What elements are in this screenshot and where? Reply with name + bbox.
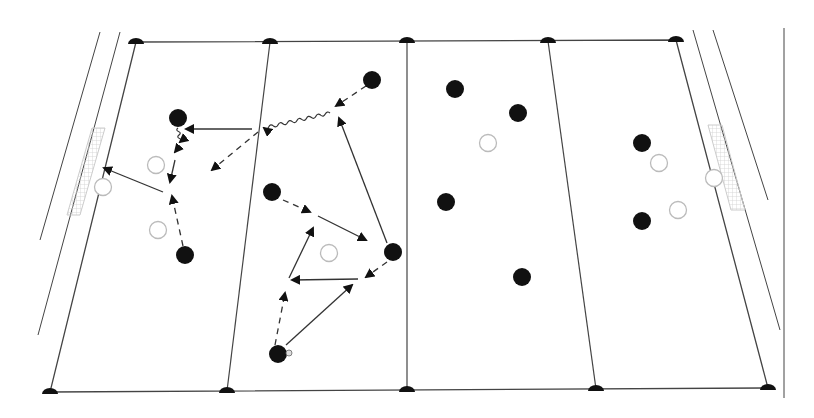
- defending-players: [95, 135, 723, 262]
- attacker-p6: [269, 345, 287, 363]
- soccer-field-canvas: [0, 0, 814, 418]
- pass-arrow: [318, 216, 366, 240]
- attacking-players: [169, 71, 651, 363]
- cone-marker: [399, 37, 415, 43]
- cone-marker: [262, 38, 278, 44]
- zone-line: [227, 42, 270, 391]
- run-arrow: [336, 86, 366, 106]
- pass-arrow: [339, 118, 387, 243]
- pass-arrow: [170, 160, 175, 182]
- cone-marker: [42, 388, 58, 394]
- defender-o6: [651, 155, 668, 172]
- movement-arrows: [104, 86, 387, 345]
- cone-marker: [588, 385, 604, 391]
- zone-line: [548, 41, 596, 389]
- run-arrow: [275, 293, 285, 345]
- run-arrow: [172, 196, 183, 246]
- attacker-p5: [384, 243, 402, 261]
- attacker-p4: [176, 246, 194, 264]
- ball-icon: [286, 350, 292, 356]
- defender-o2: [95, 179, 112, 196]
- cone-marker: [128, 38, 144, 44]
- pass-arrow: [175, 146, 180, 152]
- cone-markers: [42, 36, 776, 394]
- defender-o1: [148, 157, 165, 174]
- goal-right: [708, 125, 745, 210]
- attacker-p7: [446, 80, 464, 98]
- attacker-p9: [437, 193, 455, 211]
- defender-o5: [480, 135, 497, 152]
- cone-marker: [668, 36, 684, 42]
- cone-marker: [540, 37, 556, 43]
- cone-marker: [399, 386, 415, 392]
- run-arrow: [366, 262, 387, 277]
- dribble-arrow: [177, 128, 181, 142]
- pass-arrow: [289, 228, 313, 278]
- attacker-p3: [263, 183, 281, 201]
- attacker-p2: [363, 71, 381, 89]
- dribble-arrow: [264, 112, 330, 129]
- run-arrow: [283, 200, 310, 212]
- pass-arrow: [286, 285, 352, 345]
- run-arrow: [212, 132, 258, 170]
- defender-o3: [150, 222, 167, 239]
- attacker-p10: [513, 268, 531, 286]
- attacker-p8: [509, 104, 527, 122]
- field-lines: [50, 40, 768, 392]
- tactics-diagram: Soccer tactical drill diagram: [0, 0, 814, 418]
- field-boundary: [50, 40, 768, 392]
- defender-o4: [321, 245, 338, 262]
- attacker-p12: [633, 212, 651, 230]
- ball: [286, 350, 292, 356]
- defender-o8: [670, 202, 687, 219]
- attacker-p11: [633, 134, 651, 152]
- cone-marker: [760, 384, 776, 390]
- cone-marker: [219, 387, 235, 393]
- goal-left: [67, 128, 105, 215]
- attacker-p1: [169, 109, 187, 127]
- pass-arrow: [292, 279, 358, 280]
- defender-o7: [706, 170, 723, 187]
